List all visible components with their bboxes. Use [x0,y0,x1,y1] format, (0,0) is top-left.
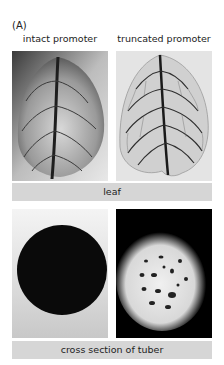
column-title-truncated: truncated promoter [116,33,212,44]
row-label-tuber: cross section of tuber [12,341,212,359]
panel-label: (A) [12,20,27,31]
leaf-truncated-image [116,51,212,181]
leaf-intact-image [12,51,108,181]
tuber-intact-image [12,209,108,338]
tuber-truncated-image [116,209,212,338]
row-label-leaf: leaf [12,183,212,201]
column-title-intact: intact promoter [12,33,108,44]
